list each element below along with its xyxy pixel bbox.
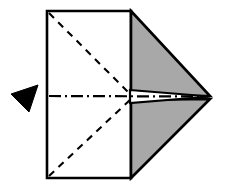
fold-diagram-container: Paper folding step diagram A rectangular… [0,0,225,187]
paper-rectangle [47,11,131,178]
fold-diagram-svg [0,0,225,187]
